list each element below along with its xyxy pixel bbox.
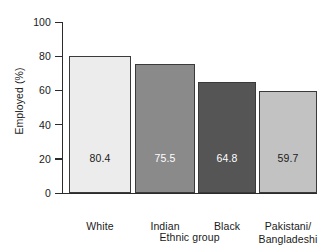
y-tick-60: [55, 90, 63, 91]
bar-pakistani-bangladeshi[interactable]: 59.7: [259, 91, 317, 193]
bar-chart: Employed (%) 0 20 40 60 80 100 80.4 75.5…: [0, 0, 327, 249]
bar-indian[interactable]: 75.5: [135, 64, 195, 193]
bar-slot-black: 64.8: [198, 22, 256, 193]
y-tick-80: [55, 56, 63, 57]
bar-value-indian: 75.5: [136, 152, 194, 164]
bar-slot-white: 80.4: [69, 22, 131, 193]
y-tick-40: [55, 124, 63, 125]
x-axis-title: Ethnic group: [62, 231, 317, 243]
y-tick-label-100: 100: [11, 17, 51, 27]
plot-area: 80.4 75.5 64.8 59.7 White Indian Black: [63, 22, 317, 193]
bar-white[interactable]: 80.4: [69, 56, 131, 194]
y-tick-label-20: 20: [11, 154, 51, 164]
bar-value-white: 80.4: [70, 152, 130, 164]
y-tick-label-80: 80: [11, 51, 51, 61]
bar-black[interactable]: 64.8: [198, 82, 256, 193]
bar-slot-indian: 75.5: [135, 22, 195, 193]
x-axis-line: [62, 193, 317, 194]
y-tick-20: [55, 158, 63, 159]
bar-slot-pakistani-bangladeshi: 59.7: [259, 22, 317, 193]
y-tick-label-0: 0: [11, 188, 51, 198]
y-tick-100: [55, 22, 63, 23]
y-tick-label-40: 40: [11, 120, 51, 130]
bar-value-pakistani-bangladeshi: 59.7: [260, 152, 316, 164]
y-tick-label-60: 60: [11, 85, 51, 95]
bar-value-black: 64.8: [199, 152, 255, 164]
